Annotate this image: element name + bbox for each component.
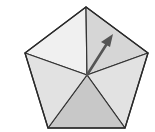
spinner-svg [0, 0, 155, 132]
spinner-diagram [0, 0, 155, 132]
